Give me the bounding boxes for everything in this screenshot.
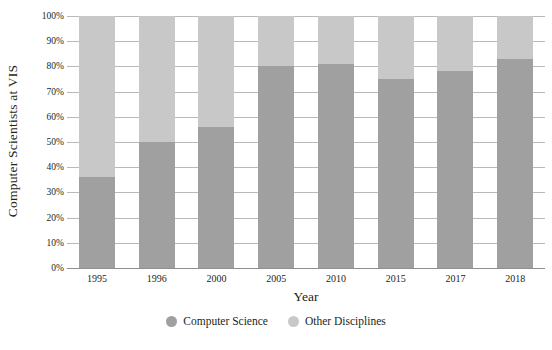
bar-segment-other-disciplines[interactable] — [497, 16, 533, 59]
stacked-bar-chart: Computer Scientists at VIS 0%10%20%30%40… — [0, 0, 552, 350]
bar-group[interactable] — [187, 16, 247, 268]
bar-stack[interactable] — [497, 16, 533, 268]
y-axis-tick-label: 40% — [47, 162, 64, 172]
plot-area — [67, 16, 545, 268]
bar-stack[interactable] — [79, 16, 115, 268]
bar-segment-computer-science[interactable] — [198, 127, 234, 268]
chart-legend: Computer ScienceOther Disciplines — [0, 315, 552, 328]
y-axis-tick-label: 70% — [47, 87, 64, 97]
bar-segment-other-disciplines[interactable] — [318, 16, 354, 64]
bar-segment-computer-science[interactable] — [79, 177, 115, 268]
legend-entry[interactable]: Computer Science — [166, 315, 268, 328]
legend-label: Computer Science — [183, 315, 268, 328]
y-axis-tick-label: 100% — [42, 11, 64, 21]
bar-segment-other-disciplines[interactable] — [437, 16, 473, 71]
y-axis-tick-label: 90% — [47, 36, 64, 46]
x-axis-tick-label: 2005 — [246, 272, 306, 290]
y-axis-tick-label: 80% — [47, 61, 64, 71]
y-axis-tick-label: 20% — [47, 213, 64, 223]
x-axis-tick-label: 2000 — [187, 272, 247, 290]
bar-stack[interactable] — [437, 16, 473, 268]
x-axis-tick-label: 1996 — [127, 272, 187, 290]
y-axis-tick-labels: 0%10%20%30%40%50%60%70%80%90%100% — [26, 0, 67, 282]
bar-segment-computer-science[interactable] — [258, 66, 294, 268]
y-axis-title-text: Computer Scientists at VIS — [5, 65, 21, 217]
x-axis-tick-label: 2018 — [485, 272, 545, 290]
legend-swatch-circle-icon — [166, 316, 177, 327]
y-axis-tick-label: 10% — [47, 238, 64, 248]
legend-entry[interactable]: Other Disciplines — [288, 315, 386, 328]
bar-stack[interactable] — [258, 16, 294, 268]
x-axis-tick-label: 1995 — [67, 272, 127, 290]
bar-group[interactable] — [306, 16, 366, 268]
bar-segment-computer-science[interactable] — [139, 142, 175, 268]
x-axis-tick-label: 2010 — [306, 272, 366, 290]
y-axis-tick-label: 30% — [47, 187, 64, 197]
bar-segment-other-disciplines[interactable] — [79, 16, 115, 177]
legend-swatch-circle-icon — [288, 316, 299, 327]
bar-stack[interactable] — [318, 16, 354, 268]
bar-stack[interactable] — [378, 16, 414, 268]
bar-group[interactable] — [426, 16, 486, 268]
bar-segment-other-disciplines[interactable] — [378, 16, 414, 79]
bar-group[interactable] — [366, 16, 426, 268]
y-axis-tick-label: 0% — [51, 263, 64, 273]
bar-segment-computer-science[interactable] — [378, 79, 414, 268]
bar-segment-computer-science[interactable] — [497, 59, 533, 268]
bar-group[interactable] — [485, 16, 545, 268]
bar-group[interactable] — [246, 16, 306, 268]
y-axis-title: Computer Scientists at VIS — [0, 0, 26, 282]
bar-group[interactable] — [127, 16, 187, 268]
x-axis-tick-label: 2015 — [366, 272, 426, 290]
bar-segment-other-disciplines[interactable] — [139, 16, 175, 142]
y-axis-tick-label: 50% — [47, 137, 64, 147]
bar-segment-other-disciplines[interactable] — [198, 16, 234, 127]
bar-group[interactable] — [67, 16, 127, 268]
y-axis-tick-label: 60% — [47, 112, 64, 122]
bar-stack[interactable] — [139, 16, 175, 268]
x-axis-tick-label: 2017 — [426, 272, 486, 290]
bar-stack[interactable] — [198, 16, 234, 268]
x-axis-line — [67, 268, 545, 269]
legend-label: Other Disciplines — [305, 315, 386, 328]
bar-segment-computer-science[interactable] — [318, 64, 354, 268]
x-axis-title: Year — [67, 289, 545, 305]
x-axis-tick-labels: 19951996200020052010201520172018 — [67, 272, 545, 290]
bar-segment-computer-science[interactable] — [437, 71, 473, 268]
bar-series-container — [67, 16, 545, 268]
bar-segment-other-disciplines[interactable] — [258, 16, 294, 66]
